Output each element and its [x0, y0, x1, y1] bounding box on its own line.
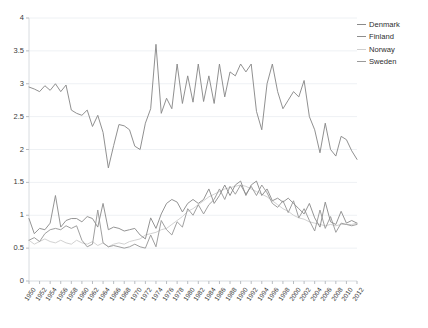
chart-legend: DenmarkFinlandNorwaySweden — [357, 18, 427, 68]
legend-label: Sweden — [369, 57, 396, 66]
y-tick-label: 0.5 — [0, 244, 24, 252]
legend-item-sweden[interactable]: Sweden — [357, 56, 427, 69]
legend-item-finland[interactable]: Finland — [357, 31, 427, 44]
y-tick-label: 1.5 — [0, 178, 24, 186]
legend-swatch-icon — [357, 24, 366, 25]
legend-item-norway[interactable]: Norway — [357, 43, 427, 56]
legend-swatch-icon — [357, 61, 366, 62]
legend-label: Norway — [369, 45, 395, 54]
series-line-sweden — [29, 185, 357, 248]
legend-swatch-icon — [357, 36, 366, 37]
y-tick-label: 4 — [0, 14, 24, 22]
legend-label: Denmark — [369, 20, 400, 29]
y-tick-label: 3 — [0, 80, 24, 88]
y-tick-label: 0 — [0, 277, 24, 285]
legend-item-denmark[interactable]: Denmark — [357, 18, 427, 31]
legend-swatch-icon — [357, 49, 366, 50]
y-tick-label: 2 — [0, 146, 24, 154]
legend-label: Finland — [369, 32, 394, 41]
y-tick-label: 2.5 — [0, 113, 24, 121]
line-chart: 00.511.522.533.54 1950195219541956195819… — [0, 0, 428, 328]
y-tick-label: 3.5 — [0, 47, 24, 55]
y-tick-label: 1 — [0, 211, 24, 219]
